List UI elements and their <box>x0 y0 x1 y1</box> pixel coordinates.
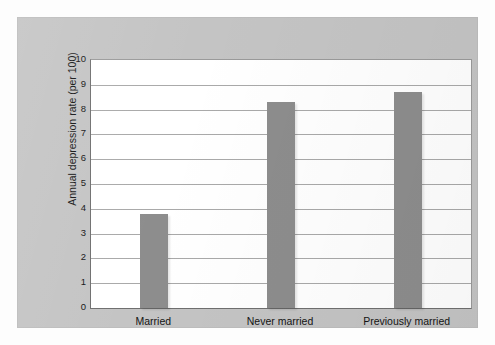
x-axis-tick-label: Never married <box>247 315 314 327</box>
y-axis-tick-label: 3 <box>64 228 86 238</box>
x-axis-tick-label: Married <box>136 315 172 327</box>
y-axis-tick-label: 6 <box>64 153 86 163</box>
figure-page: Annual depression rate (per 100) 1098765… <box>0 0 495 345</box>
y-axis-tick-label: 10 <box>64 54 86 64</box>
y-axis-tick-label: 4 <box>64 203 86 213</box>
y-axis-tick-label: 0 <box>64 302 86 312</box>
gridline <box>91 85 471 86</box>
bar[interactable] <box>267 102 295 308</box>
y-axis-tick-labels: 109876543210 <box>62 59 86 309</box>
y-axis-tick-label: 7 <box>64 128 86 138</box>
y-axis-tick-label: 2 <box>64 252 86 262</box>
bar[interactable] <box>140 214 168 308</box>
x-axis-tick-labels: MarriedNever marriedPreviously married <box>90 315 472 333</box>
x-axis-tick-label: Previously married <box>363 315 450 327</box>
plot-area <box>90 59 472 309</box>
y-axis-tick-label: 8 <box>64 104 86 114</box>
y-axis-tick-label: 9 <box>64 79 86 89</box>
y-axis-tick-label: 5 <box>64 178 86 188</box>
bar[interactable] <box>394 92 422 308</box>
figure-panel: Annual depression rate (per 100) 1098765… <box>17 17 478 328</box>
y-axis-tick-label: 1 <box>64 277 86 287</box>
